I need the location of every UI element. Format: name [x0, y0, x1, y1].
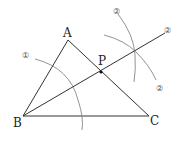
point-p-marker	[99, 70, 102, 73]
label-b: B	[13, 116, 22, 130]
step-label-1: ①	[22, 51, 29, 60]
arc-step2-a	[118, 14, 135, 82]
step-label-2-ray: ②	[164, 26, 171, 35]
arc-step1	[35, 59, 83, 130]
label-a: A	[62, 26, 72, 40]
label-c: C	[150, 114, 159, 128]
side-ab	[23, 40, 68, 116]
arc-step2-b	[104, 35, 156, 80]
step-label-2-top: ②	[113, 7, 120, 16]
label-p: P	[98, 54, 106, 68]
construction-diagram: A B C P ① ② ② ②	[0, 0, 185, 144]
step-label-2-lower: ②	[156, 84, 163, 93]
angle-bisector-ray	[23, 33, 165, 116]
side-ac	[68, 40, 149, 116]
